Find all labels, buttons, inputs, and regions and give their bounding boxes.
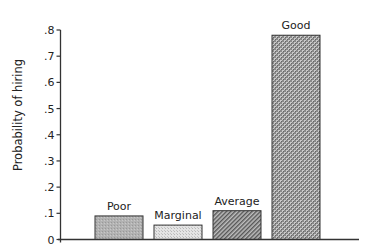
y-tick-label: 0 (48, 234, 55, 247)
y-tick-label: .1 (44, 207, 55, 220)
y-tick-label: .2 (44, 181, 55, 194)
bar-label-average: Average (214, 195, 259, 208)
y-axis: 0.1.2.3.4.5.6.7.8 (44, 24, 61, 247)
y-tick-label: .6 (44, 76, 55, 89)
bar-label-poor: Poor (107, 200, 132, 213)
y-tick-label: .8 (44, 24, 55, 37)
bar-chart: Probability of hiring 0.1.2.3.4.5.6.7.8 … (0, 0, 366, 252)
bar-marginal (154, 225, 202, 239)
y-tick-label: .5 (44, 103, 55, 116)
bar-label-marginal: Marginal (154, 209, 201, 222)
bar-label-good: Good (282, 19, 311, 32)
y-tick-label: .3 (44, 155, 55, 168)
bar-poor (95, 216, 143, 240)
y-tick-label: .7 (44, 50, 55, 63)
bars: PoorMarginalAverageGood (95, 19, 320, 239)
y-axis-title: Probability of hiring (11, 59, 25, 171)
bar-good (272, 35, 320, 239)
bar-average (213, 211, 261, 240)
y-tick-label: .4 (44, 129, 55, 142)
